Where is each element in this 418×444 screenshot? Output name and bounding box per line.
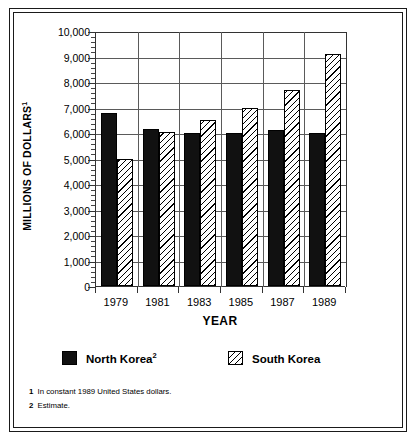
y-axis-tick-major <box>88 236 95 237</box>
y-axis-title: MILLIONS OF DOLLARS1 <box>21 76 34 256</box>
y-axis-tick-label: 6,000 <box>34 128 90 140</box>
gridline-vertical <box>346 32 347 287</box>
footnote-marker: 2 <box>29 401 33 410</box>
x-axis-tick <box>137 287 138 293</box>
legend-label-north-korea-superscript: 2 <box>152 351 156 360</box>
y-axis-tick-major <box>88 83 95 84</box>
footnote-text: Estimate. <box>35 401 70 410</box>
plot-inner <box>96 32 345 286</box>
y-axis-tick-label: 4,000 <box>34 179 90 191</box>
gridline-vertical <box>138 32 139 287</box>
y-axis-tick-major <box>88 134 95 135</box>
bar-south-korea-1979 <box>117 159 133 287</box>
legend-label-south-korea: South Korea <box>252 351 320 365</box>
y-axis-tick-major <box>88 287 95 288</box>
gridline-vertical <box>179 32 180 287</box>
gridline-vertical <box>263 32 264 287</box>
y-axis-tick-label: 2,000 <box>34 230 90 242</box>
y-axis-tick-major <box>88 262 95 263</box>
y-axis-tick-major <box>88 109 95 110</box>
bar-chart: MILLIONS OF DOLLARS1 01,0002,0003,0004,0… <box>0 0 418 444</box>
y-axis-tick-label: 3,000 <box>34 205 90 217</box>
y-axis-tick-label: 10,000 <box>34 26 90 38</box>
bar-north-korea-1983 <box>184 133 200 286</box>
x-axis-tick <box>95 287 96 293</box>
gridline-vertical <box>304 32 305 287</box>
x-axis-title: YEAR <box>95 314 345 328</box>
bar-south-korea-1981 <box>159 132 175 286</box>
legend-label-north-korea-text: North Korea <box>86 353 152 365</box>
x-axis-tick <box>303 287 304 293</box>
legend-item-north-korea: North Korea2 <box>62 348 157 368</box>
footnotes: 1 In constant 1989 United States dollars… <box>29 387 359 415</box>
y-axis-tick-label: 8,000 <box>34 77 90 89</box>
y-axis-tick-major <box>88 160 95 161</box>
y-axis-title-superscript: 1 <box>21 102 28 106</box>
footnote-text: In constant 1989 United States dollars. <box>35 387 171 396</box>
footnote: 2 Estimate. <box>29 401 359 410</box>
x-axis-tick-label: 1989 <box>294 296 354 308</box>
x-axis-tick <box>178 287 179 293</box>
plot-area <box>95 32 345 287</box>
bar-north-korea-1985 <box>226 133 242 286</box>
y-axis-tick-label: 5,000 <box>34 154 90 166</box>
bar-north-korea-1979 <box>101 113 117 286</box>
footnote-marker: 1 <box>29 387 33 396</box>
y-axis-tick-label: 1,000 <box>34 256 90 268</box>
bar-south-korea-1983 <box>200 120 216 286</box>
chart-legend: North Korea2 South Korea <box>30 348 390 370</box>
y-axis-tick-label: 9,000 <box>34 52 90 64</box>
footnote: 1 In constant 1989 United States dollars… <box>29 387 359 396</box>
x-axis-tick <box>345 287 346 293</box>
bar-north-korea-1989 <box>309 133 325 286</box>
bar-north-korea-1981 <box>143 129 159 286</box>
bar-north-korea-1987 <box>268 130 284 286</box>
y-axis-tick-major <box>88 32 95 33</box>
gridline-vertical <box>221 32 222 287</box>
y-axis-title-text: MILLIONS OF DOLLARS <box>21 106 33 231</box>
y-axis-tick-label: 7,000 <box>34 103 90 115</box>
bar-south-korea-1985 <box>242 108 258 287</box>
hatched-swatch <box>228 351 243 365</box>
bar-south-korea-1987 <box>284 90 300 286</box>
y-axis-tick-label: 0 <box>34 281 90 293</box>
legend-item-south-korea: South Korea <box>228 348 320 368</box>
legend-label-south-korea-text: South Korea <box>252 353 320 365</box>
y-axis-tick-major <box>88 58 95 59</box>
x-axis-tick <box>220 287 221 293</box>
y-axis-tick-major <box>88 185 95 186</box>
y-axis-tick-major <box>88 211 95 212</box>
legend-label-north-korea: North Korea2 <box>86 351 157 365</box>
solid-black-swatch <box>62 351 77 365</box>
bar-south-korea-1989 <box>325 54 341 286</box>
x-axis-tick <box>262 287 263 293</box>
